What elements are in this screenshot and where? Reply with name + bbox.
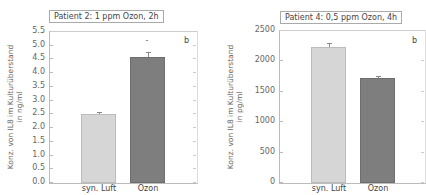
chart-title: Patient 2: 1 ppm Ozon, 2h xyxy=(49,10,164,23)
y-tick-label: 1.0 xyxy=(15,150,45,159)
x-tick-label: Ozon xyxy=(353,184,403,193)
error-bar xyxy=(148,53,149,57)
x-tick-label: Ozon xyxy=(123,184,173,193)
y-tick-label: 0.0 xyxy=(15,177,45,186)
y-tick-label: 4.0 xyxy=(15,67,45,76)
y-tick-label: 5.5 xyxy=(15,26,45,35)
error-bar-cap xyxy=(376,76,381,77)
y-tick-label: 0 xyxy=(245,177,275,186)
y-tick-label: 2500 xyxy=(245,25,275,34)
y-tick-label: 2000 xyxy=(245,55,275,64)
y-axis-label: Konz. von IL8 im Kulturüberstand in pg/m… xyxy=(226,32,244,182)
error-bar-cap xyxy=(146,52,151,53)
error-bar-cap xyxy=(327,43,332,44)
panel-letter: b xyxy=(412,36,417,45)
y-tick-label: 1500 xyxy=(245,86,275,95)
plot-area: b xyxy=(279,30,426,184)
y-tick-label: 2.5 xyxy=(15,108,45,117)
error-bar xyxy=(99,113,100,114)
y-tick-label: 5.0 xyxy=(15,40,45,49)
error-bar xyxy=(329,44,330,47)
y-tick-label: 0.5 xyxy=(15,163,45,172)
y-tick-label: 1.5 xyxy=(15,136,45,145)
y-tick-label: 3.0 xyxy=(15,95,45,104)
x-tick-label: syn. Luft xyxy=(304,184,354,193)
chart-left: Patient 2: 1 ppm Ozon, 2h Konz. von IL8 … xyxy=(0,0,213,195)
y-tick-label: 2.0 xyxy=(15,122,45,131)
y-tick-label: 3.5 xyxy=(15,81,45,90)
error-bar-cap xyxy=(97,112,102,113)
bar-ozon xyxy=(130,57,165,183)
bar-syn-luft xyxy=(311,47,346,183)
significance-marker: - xyxy=(146,36,149,45)
chart-right: Patient 4: 0,5 ppm Ozon, 4h Konz. von IL… xyxy=(213,0,426,195)
y-tick-label: 4.5 xyxy=(15,53,45,62)
error-bar xyxy=(378,77,379,78)
bar-syn-luft xyxy=(81,114,116,183)
chart-title: Patient 4: 0,5 ppm Ozon, 4h xyxy=(280,11,402,24)
y-tick-label: 500 xyxy=(245,147,275,156)
bar-ozon xyxy=(360,78,395,183)
panel-letter: b xyxy=(184,36,189,45)
plot-area: b - xyxy=(49,31,198,184)
x-tick-label: syn. Luft xyxy=(74,184,124,193)
y-tick-label: 1000 xyxy=(245,116,275,125)
